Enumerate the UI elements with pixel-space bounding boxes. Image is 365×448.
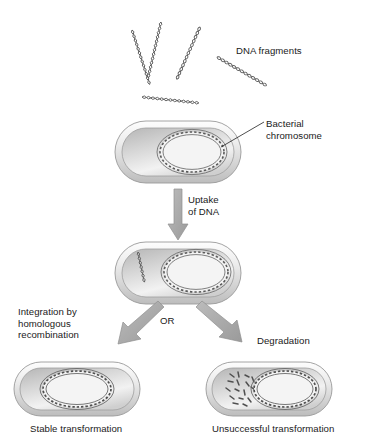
transformation-diagram: DNA fragments Bacterial chromosome Uptak… <box>0 0 365 448</box>
bacterial-chromosome <box>157 129 227 174</box>
recipient-cell-before-uptake <box>115 121 241 183</box>
recipient-cell-after-uptake <box>115 242 241 304</box>
label-unsuccessful-transformation: Unsuccessful transformation <box>212 423 334 435</box>
diagram-canvas <box>0 0 365 448</box>
label-stable-transformation: Stable transformation <box>30 423 122 435</box>
arrow-integration <box>118 301 164 344</box>
dna-fragment-5 <box>142 96 199 105</box>
label-bacterial-chromosome: Bacterial chromosome <box>266 118 322 141</box>
dna-fragment-2 <box>147 22 162 78</box>
dna-fragment-4 <box>216 56 267 87</box>
dna-fragment-3 <box>176 26 202 79</box>
label-dna-fragments: DNA fragments <box>236 45 302 57</box>
bacterial-chromosome <box>161 249 231 294</box>
arrow-degradation <box>196 301 242 342</box>
dna-fragments-group <box>131 22 267 105</box>
arrow-uptake <box>168 189 188 240</box>
unsuccessful-transformation-cell <box>206 362 332 416</box>
recombinant-chromosome <box>40 369 114 410</box>
label-degradation: Degradation <box>257 335 310 347</box>
bacterial-chromosome <box>251 369 319 410</box>
stable-transformation-cell <box>14 362 140 416</box>
label-or: OR <box>160 315 175 327</box>
label-integration-by-homologous-recombination: Integration by homologous recombination <box>18 306 79 341</box>
label-uptake-of-dna: Uptake of DNA <box>188 194 219 217</box>
